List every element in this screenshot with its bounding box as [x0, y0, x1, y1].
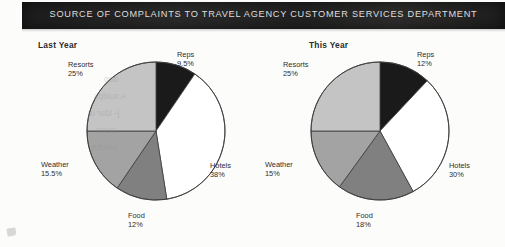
label-hotels: Hotels 38%: [210, 161, 231, 180]
page-title: SOURCE OF COMPLAINTS TO TRAVEL AGENCY CU…: [22, 9, 505, 19]
label-weather: Weather 15.5%: [41, 160, 69, 179]
chart-title-last-year: Last Year: [38, 40, 77, 50]
header-banner: SOURCE OF COMPLAINTS TO TRAVEL AGENCY CU…: [22, 2, 505, 29]
label-hotels: Hotels 30%: [449, 161, 470, 180]
chart-title-this-year: This Year: [309, 40, 348, 50]
label-weather: Weather 15%: [265, 160, 293, 179]
pie-chart-last-year: dup A suidps j- ʇdǝɾ ɯ ǝɯoɔ ʎǝʌɹns: [86, 60, 226, 202]
page-canvas: SOURCE OF COMPLAINTS TO TRAVEL AGENCY CU…: [0, 0, 505, 247]
label-food: Food 12%: [128, 211, 145, 230]
pie-chart-this-year: [310, 60, 450, 202]
pie-slice-resorts[interactable]: [87, 62, 156, 131]
pie-svg-last-year: [86, 60, 226, 202]
label-reps: Reps 9.5%: [177, 50, 194, 69]
chart-panel-last-year: Last Year dup A suidps: [5, 34, 255, 246]
scan-artifact-smudge: [6, 227, 16, 236]
label-food: Food 18%: [356, 211, 373, 230]
pie-slice-resorts[interactable]: [311, 62, 380, 131]
label-resorts: Resorts 25%: [283, 60, 308, 79]
label-reps: Reps 12%: [417, 50, 434, 69]
pie-svg-this-year: [310, 60, 450, 202]
chart-panel-this-year: This Year Reps 12%: [253, 34, 503, 246]
label-resorts: Resorts 25%: [68, 60, 93, 79]
